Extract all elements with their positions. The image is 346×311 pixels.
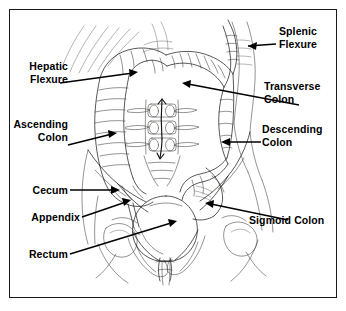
label-ascending-colon: Ascending Colon	[0, 118, 68, 143]
pelvis-group	[88, 132, 266, 285]
splenic-flexure-group	[223, 20, 239, 87]
transverse-colon-group	[152, 51, 233, 87]
label-appendix: Appendix	[0, 211, 80, 224]
ribs-group	[61, 22, 173, 73]
label-cecum: Cecum	[0, 184, 68, 197]
label-descending-colon: Descending Colon	[262, 123, 340, 148]
ascending-colon-group	[95, 76, 133, 180]
sigmoid-colon-group	[180, 158, 228, 220]
spine-group	[126, 99, 199, 186]
label-splenic-flexure: Splenic Flexure	[279, 25, 345, 50]
label-transverse-colon: Transverse Colon	[264, 80, 336, 105]
anatomy-figure: Hepatic Flexure Splenic Flexure Transver…	[0, 0, 346, 311]
bladder-rectum-group	[133, 196, 198, 281]
label-sigmoid-colon: Sigmoid Colon	[249, 214, 341, 227]
descending-colon-group	[219, 74, 234, 164]
label-hepatic-flexure: Hepatic Flexure	[0, 60, 68, 85]
label-rectum: Rectum	[0, 248, 68, 261]
